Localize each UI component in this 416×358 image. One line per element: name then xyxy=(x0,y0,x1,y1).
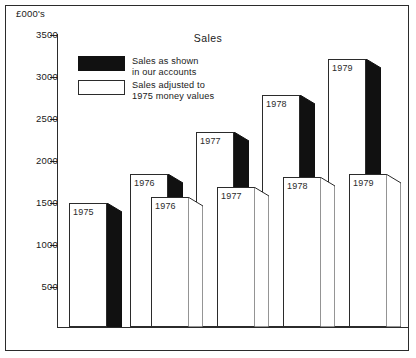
legend-item-accounts: Sales as shown in our accounts xyxy=(78,56,214,77)
x-axis-line xyxy=(57,327,409,328)
y-tick-label: 2500 xyxy=(12,113,58,124)
bar-1976-adjusted: 1976 xyxy=(151,197,189,327)
legend-swatch-hollow-icon xyxy=(78,80,125,95)
sales-bar-chart: £000's Sales 3500 3000 2500 2000 1500 10… xyxy=(0,0,416,358)
y-tick-label: 2000 xyxy=(12,155,58,166)
legend-label-adjusted-line1: Sales adjusted to xyxy=(132,80,214,91)
y-tick-label: 1500 xyxy=(12,197,58,208)
bar-1975-accounts: 1975 xyxy=(69,203,107,327)
bar-1977-adjusted: 1977 xyxy=(217,187,255,327)
y-tick-label: 1000 xyxy=(12,239,58,250)
legend-label-adjusted-line2: 1975 money values xyxy=(132,91,214,102)
plot-area: 3500 3000 2500 2000 1500 1000 500 xyxy=(0,0,416,358)
legend-swatch-filled-icon xyxy=(78,56,125,71)
bar-1979-adjusted: 1979 xyxy=(349,174,387,327)
legend-item-adjusted: Sales adjusted to 1975 money values xyxy=(78,80,214,101)
legend-label-accounts: Sales as shown in our accounts xyxy=(132,56,198,77)
legend-label-adjusted: Sales adjusted to 1975 money values xyxy=(132,80,214,101)
y-tick-label: 3000 xyxy=(12,71,58,82)
legend-label-accounts-line2: in our accounts xyxy=(132,67,198,78)
y-tick-label: 3500 xyxy=(12,29,58,40)
y-tick-label: 500 xyxy=(12,281,58,292)
legend-label-accounts-line1: Sales as shown xyxy=(132,56,198,67)
chart-legend: Sales as shown in our accounts Sales adj… xyxy=(78,56,214,104)
bar-1978-adjusted: 1978 xyxy=(283,177,321,327)
